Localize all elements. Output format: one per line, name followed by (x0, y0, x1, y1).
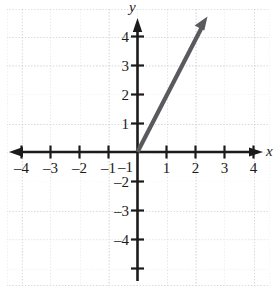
graph-figure: y x –4 –3 –2 –1 1 2 3 4 4 3 2 1 –1 –2 –3… (0, 0, 280, 293)
y-axis-label: y (129, 0, 136, 15)
x-tick-label-neg3: –3 (40, 161, 61, 176)
y-tick-label-4: 4 (114, 30, 129, 45)
y-tick-label-neg2: –2 (108, 175, 129, 190)
y-axis-up-arrow (133, 18, 142, 32)
plot-area (0, 0, 280, 293)
y-tick-label-3: 3 (114, 59, 129, 74)
x-axis-label: x (266, 144, 273, 159)
x-tick-label-4: 4 (246, 161, 261, 176)
x-tick-label-neg2: –2 (69, 161, 90, 176)
ray-y-equals-2x (138, 17, 208, 153)
y-tick-label-neg4: –4 (108, 233, 129, 248)
y-tick-label-neg1: –1 (112, 160, 133, 175)
x-tick-label-1: 1 (159, 161, 174, 176)
x-axis-right-arrow (249, 148, 263, 157)
y-tick-label-1: 1 (114, 117, 129, 132)
ray-arrowhead (195, 17, 208, 31)
x-tick-label-2: 2 (188, 161, 203, 176)
x-tick-label-3: 3 (217, 161, 232, 176)
x-tick-label-neg4: –4 (11, 161, 32, 176)
y-tick-label-neg3: –3 (108, 204, 129, 219)
y-tick-label-2: 2 (114, 88, 129, 103)
x-axis (9, 146, 263, 159)
